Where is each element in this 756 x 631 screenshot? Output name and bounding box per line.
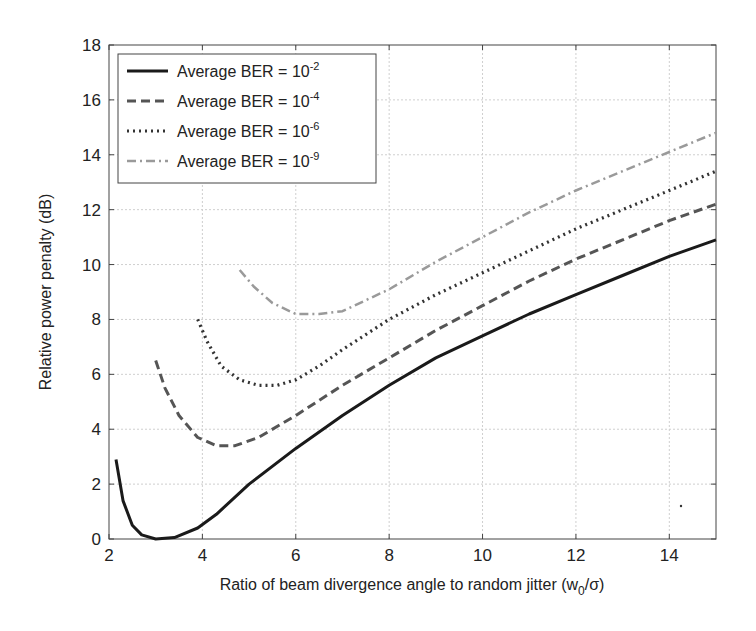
x-tick-label: 6 [291, 546, 300, 565]
x-tick-label: 4 [198, 546, 207, 565]
stray-dot [680, 505, 682, 507]
y-tick-label: 18 [82, 36, 101, 55]
y-tick-label: 16 [82, 91, 101, 110]
series-line [156, 204, 716, 446]
x-tick-label: 14 [660, 546, 679, 565]
x-tick-label: 2 [104, 546, 113, 565]
y-axis-label: Relative power penalty (dB) [37, 194, 54, 391]
legend-label: Average BER = 10-2 [177, 60, 319, 80]
y-tick-label: 10 [82, 256, 101, 275]
legend-label: Average BER = 10-4 [177, 90, 319, 110]
x-tick-label: 8 [384, 546, 393, 565]
x-tick-label: 12 [566, 546, 585, 565]
legend: Average BER = 10-2Average BER = 10-4Aver… [118, 54, 376, 183]
y-tick-label: 0 [92, 530, 101, 549]
x-axis-label: Ratio of beam divergence angle to random… [220, 576, 605, 598]
y-tick-label: 14 [82, 146, 101, 165]
data-series [116, 133, 716, 539]
y-tick-label: 2 [92, 475, 101, 494]
x-tick-label: 10 [473, 546, 492, 565]
y-tick-label: 4 [92, 420, 101, 439]
legend-label: Average BER = 10-9 [177, 150, 319, 170]
y-tick-label: 8 [92, 310, 101, 329]
line-chart: 2468101214 024681012141618 Ratio of beam… [0, 0, 756, 631]
y-tick-label: 6 [92, 365, 101, 384]
series-line [116, 240, 716, 539]
legend-label: Average BER = 10-6 [177, 120, 319, 140]
series-line [198, 171, 716, 385]
y-tick-label: 12 [82, 201, 101, 220]
